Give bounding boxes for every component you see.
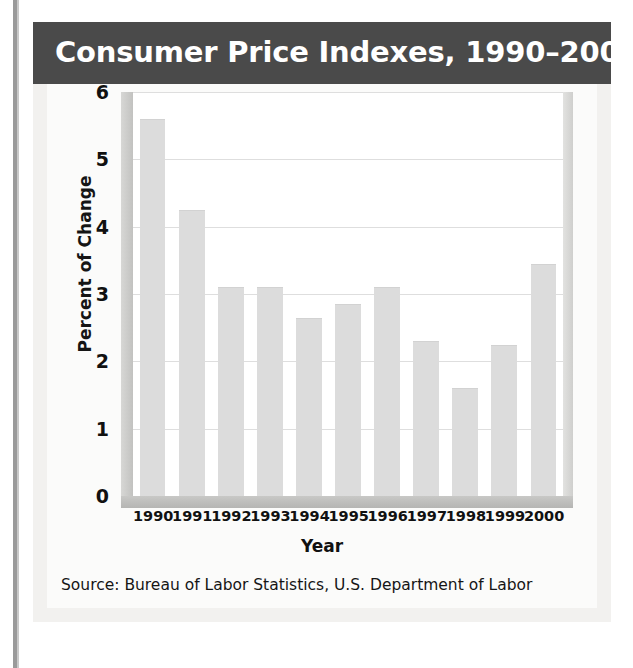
bar-1994 [296,318,322,496]
plot-area [133,92,563,496]
x-axis-3d-floor [121,496,573,508]
gridline [133,92,563,93]
gridline [133,159,563,160]
chart-figure: Consumer Price Indexes, 1990–2000 Percen… [33,22,611,622]
y-tick-label: 1 [87,419,109,438]
title-band: Consumer Price Indexes, 1990–2000 [33,22,611,84]
x-tick-label: 1997 [407,508,446,524]
bar-1991 [179,210,205,496]
y-tick-label: 3 [87,285,109,304]
y-tick-label: 4 [87,217,109,236]
source-attribution: Source: Bureau of Labor Statistics, U.S.… [61,576,597,594]
chart-card: Percent of Change 0123456 19901991199219… [47,84,597,608]
x-tick-label: 1990 [133,508,172,524]
bar-1996 [374,287,400,496]
bar-1999 [491,345,517,497]
page-edge-rule-secondary [17,0,19,668]
x-tick-label: 1995 [328,508,367,524]
y-axis-tick-labels: 0123456 [75,84,109,534]
bar-1998 [452,388,478,496]
y-tick-label: 0 [87,487,109,506]
x-axis-tick-labels: 1990199119921993199419951996199719981999… [133,508,563,534]
plot-box [121,92,573,512]
x-tick-label: 1999 [485,508,524,524]
bar-1997 [413,341,439,496]
x-tick-label: 1998 [446,508,485,524]
x-tick-label: 1993 [250,508,289,524]
bar-2000 [531,264,557,496]
scanned-page: Consumer Price Indexes, 1990–2000 Percen… [0,0,633,668]
bar-1990 [140,119,166,496]
bar-1992 [218,287,244,496]
y-tick-label: 5 [87,150,109,169]
plot-wrapper: Percent of Change 0123456 19901991199219… [47,84,597,534]
x-axis-title: Year [47,536,597,556]
chart-title: Consumer Price Indexes, 1990–2000 [55,35,633,69]
plot-right-edge-wall [563,92,573,504]
bar-1995 [335,304,361,496]
y-tick-label: 6 [87,83,109,102]
y-tick-label: 2 [87,352,109,371]
x-tick-label: 1992 [211,508,250,524]
y-axis-3d-wall [121,92,133,504]
x-tick-label: 2000 [524,508,563,524]
x-tick-label: 1996 [368,508,407,524]
bar-1993 [257,287,283,496]
x-tick-label: 1991 [172,508,211,524]
x-tick-label: 1994 [289,508,328,524]
